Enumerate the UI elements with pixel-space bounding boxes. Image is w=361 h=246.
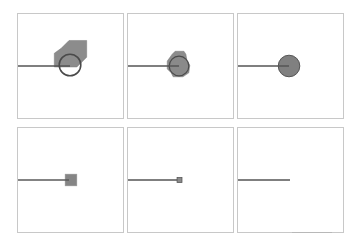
- tiny-square-shape: [177, 178, 182, 183]
- panel-4-square: [17, 127, 124, 233]
- panel-3-circle: [237, 13, 344, 119]
- panel-3-graphic: [238, 14, 343, 118]
- panel-2-small-hexagon-circle: [127, 13, 234, 119]
- panel-5-tiny-square: [127, 127, 234, 233]
- bottom-edge-shadow: [292, 232, 332, 233]
- panel-4-graphic: [18, 128, 123, 232]
- panel-5-graphic: [128, 128, 233, 232]
- panel-1-hexagon-circle: [17, 13, 124, 119]
- panel-6-line-only: [237, 127, 344, 233]
- panel-2-graphic: [128, 14, 233, 118]
- figure-canvas: [0, 0, 361, 246]
- panel-1-graphic: [18, 14, 123, 118]
- panel-6-graphic: [238, 128, 343, 232]
